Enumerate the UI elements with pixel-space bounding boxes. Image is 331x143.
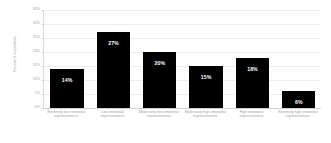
bar-slot: 18% [229, 10, 275, 108]
bar-slot: 15% [183, 10, 229, 108]
bar[interactable]: 6% [282, 91, 315, 108]
bar-value-label: 18% [236, 67, 269, 72]
bar-value-label: 27% [97, 41, 130, 46]
bar-slot: 20% [137, 10, 183, 108]
bar[interactable]: 14% [50, 69, 83, 108]
bar[interactable]: 27% [97, 32, 130, 108]
x-axis-category-label: Low emotional expressiveness [89, 110, 135, 119]
bar-slot: 14% [44, 10, 90, 108]
bar-value-label: 6% [282, 100, 315, 105]
x-axis-category-label: Moderately low emotional expressiveness [136, 110, 182, 119]
y-axis-tick-label: 15% [33, 64, 40, 68]
y-axis-tick-label: 30% [33, 22, 40, 26]
y-axis-tick-label: 25% [33, 36, 40, 40]
x-axis-category-label: Extremely high emotional expressiveness [275, 110, 321, 119]
y-axis-tick-label: 0% [35, 106, 40, 110]
bar-value-label: 14% [50, 78, 83, 83]
bar-value-label: 15% [189, 75, 222, 80]
bar[interactable]: 18% [236, 58, 269, 108]
y-axis-tick-labels: 0%5%10%15%20%25%30%35% [20, 10, 40, 108]
y-axis-tick-label: 35% [33, 8, 40, 12]
y-axis-title-text: Percent of respondents [13, 36, 17, 72]
bar-slot: 27% [90, 10, 136, 108]
x-axis-category-label: High emotional expressiveness [228, 110, 274, 119]
y-axis-tick-label: 5% [35, 92, 40, 96]
bar-chart-figure: Percent of respondents 0%5%10%15%20%25%3… [0, 0, 331, 143]
bar[interactable]: 20% [143, 52, 176, 108]
x-axis-category-label: Moderately high emotional expressiveness [182, 110, 228, 119]
bar[interactable]: 15% [189, 66, 222, 108]
bar-value-label: 20% [143, 61, 176, 66]
y-axis-tick-label: 10% [33, 78, 40, 82]
axis-baseline [44, 108, 321, 109]
bar-slot: 6% [276, 10, 322, 108]
y-axis-tickmark [42, 108, 45, 109]
x-axis-category-labels: Extremely low emotional expressivenessLo… [43, 110, 321, 143]
x-axis-category-label: Extremely low emotional expressiveness [43, 110, 89, 119]
y-axis-tick-label: 20% [33, 50, 40, 54]
bars-layer: 14%27%20%15%18%6% [44, 10, 321, 108]
plot-area: 14%27%20%15%18%6% [43, 10, 321, 108]
